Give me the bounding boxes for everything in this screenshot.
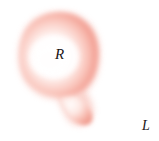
region-figure-canvas — [0, 0, 159, 141]
region-label-r: R — [55, 47, 64, 62]
figure-container: R L — [0, 0, 159, 141]
exterior-label-l: L — [142, 119, 150, 133]
